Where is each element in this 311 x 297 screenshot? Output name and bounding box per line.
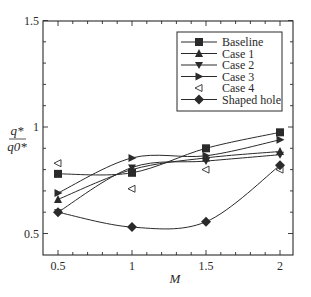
marker-case-3 [277, 136, 285, 144]
y-tick-label: 1.5 [24, 14, 39, 28]
y-axis-denominator: q0* [7, 139, 27, 154]
marker-shaped-hole [127, 222, 137, 232]
legend: BaselineCase 1Case 2Case 3Case 4Shaped h… [177, 32, 282, 111]
marker-shaped-hole [201, 217, 211, 227]
x-axis-title: M [169, 271, 182, 286]
x-tick-label: 0.5 [51, 259, 66, 273]
x-tick-label: 1.5 [199, 259, 214, 273]
y-tick-label: 0.5 [24, 227, 39, 241]
chart: 0.511.520.511.5 BaselineCase 1Case 2Case… [0, 0, 311, 297]
x-tick-label: 1 [129, 259, 135, 273]
marker-case-3 [129, 154, 137, 162]
marker-baseline [276, 128, 284, 136]
legend-label-shaped-hole: Shaped hole [222, 93, 281, 107]
marker-case-3 [55, 189, 63, 197]
y-tick-label: 1 [33, 120, 39, 134]
y-axis-numerator: q* [11, 123, 25, 138]
series-lines [58, 132, 280, 229]
marker-case-4 [54, 160, 61, 167]
legend-marker-baseline [195, 38, 203, 46]
x-tick-label: 2 [277, 259, 283, 273]
y-axis-title: q* q0* [7, 123, 27, 154]
marker-shaped-hole [53, 207, 63, 217]
series-markers [53, 128, 285, 232]
marker-case-4 [202, 166, 209, 173]
marker-baseline [202, 144, 210, 152]
marker-case-4 [128, 185, 135, 192]
series-line-case-2 [58, 155, 280, 213]
marker-baseline [54, 170, 62, 178]
